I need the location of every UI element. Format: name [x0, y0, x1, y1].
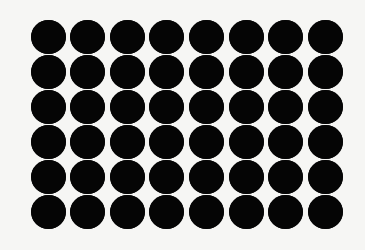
- black-circle: [308, 125, 343, 159]
- black-circle: [189, 160, 224, 194]
- black-circle: [229, 195, 264, 229]
- black-circle: [268, 20, 303, 54]
- black-circle: [31, 160, 66, 194]
- black-circle: [308, 20, 343, 54]
- black-circle: [149, 125, 184, 159]
- black-circle: [31, 125, 66, 159]
- black-circle: [229, 20, 264, 54]
- black-circle: [229, 55, 264, 89]
- black-circle: [70, 160, 105, 194]
- black-circle: [149, 160, 184, 194]
- black-circle: [31, 20, 66, 54]
- black-circle: [268, 125, 303, 159]
- black-circle: [149, 195, 184, 229]
- black-circle: [229, 160, 264, 194]
- black-circle: [70, 90, 105, 124]
- black-circle: [189, 55, 224, 89]
- black-circle: [268, 195, 303, 229]
- black-circle: [229, 125, 264, 159]
- black-circle: [189, 125, 224, 159]
- black-circle: [308, 160, 343, 194]
- black-circle: [110, 20, 145, 54]
- black-circle: [70, 20, 105, 54]
- black-circle: [70, 195, 105, 229]
- black-circle: [110, 195, 145, 229]
- black-circle: [149, 55, 184, 89]
- black-circle: [110, 125, 145, 159]
- dot-grid-canvas: [0, 0, 365, 250]
- black-circle: [229, 90, 264, 124]
- black-circle: [268, 55, 303, 89]
- black-circle: [189, 90, 224, 124]
- black-circle: [308, 90, 343, 124]
- black-circle: [31, 55, 66, 89]
- black-circle: [110, 55, 145, 89]
- black-circle: [308, 55, 343, 89]
- black-circle: [149, 90, 184, 124]
- black-circle: [110, 90, 145, 124]
- black-circle: [189, 195, 224, 229]
- black-circle: [268, 160, 303, 194]
- black-circle: [189, 20, 224, 54]
- black-circle: [70, 125, 105, 159]
- black-circle: [268, 90, 303, 124]
- black-circle: [149, 20, 184, 54]
- black-circle: [110, 160, 145, 194]
- black-circle: [308, 195, 343, 229]
- black-circle: [70, 55, 105, 89]
- black-circle: [31, 90, 66, 124]
- black-circle: [31, 195, 66, 229]
